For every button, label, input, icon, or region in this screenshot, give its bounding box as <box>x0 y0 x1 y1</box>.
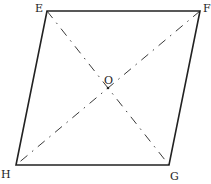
center-point-o <box>107 87 110 90</box>
vertex-label-f: F <box>203 2 211 15</box>
vertex-label-h: H <box>1 168 11 181</box>
center-label-o: O <box>104 74 113 87</box>
parallelogram-diagram: E F G H O <box>0 0 211 184</box>
vertex-label-g: G <box>170 170 179 183</box>
vertex-label-e: E <box>35 2 43 15</box>
